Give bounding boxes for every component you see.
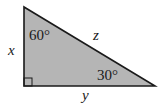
right-triangle [24, 7, 155, 86]
side-label-y: y [80, 87, 89, 103]
angle-label-30: 30° [97, 67, 118, 83]
triangle-diagram: 60° 30° x z y [0, 0, 167, 109]
side-label-z: z [92, 27, 99, 43]
side-label-x: x [7, 42, 15, 58]
angle-label-60: 60° [29, 27, 50, 43]
